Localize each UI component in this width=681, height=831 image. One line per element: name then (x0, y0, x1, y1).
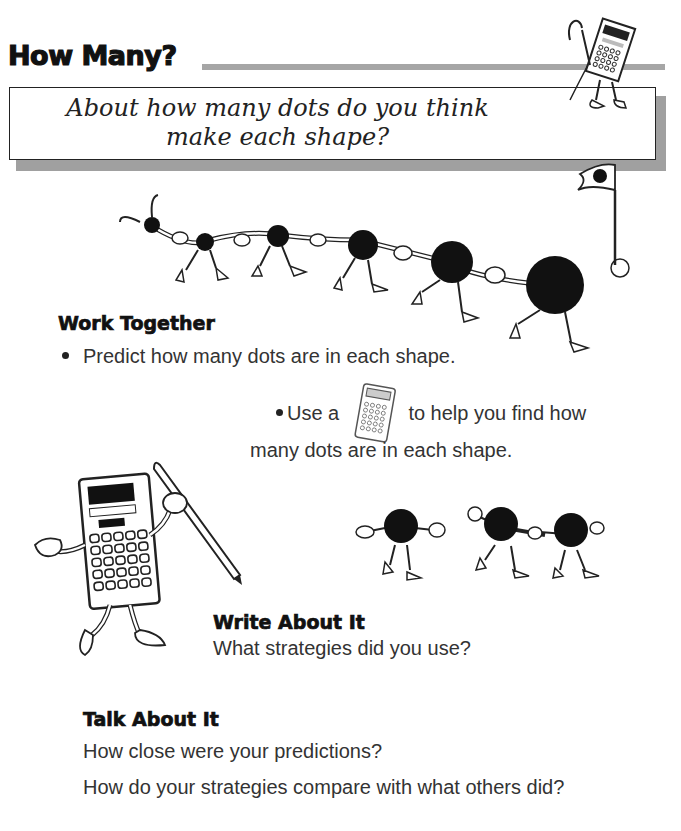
bullet-icon (276, 409, 283, 416)
dot-characters-small-icon (355, 500, 615, 585)
talk-about-it-prompt-2: How do your strategies compare with what… (83, 776, 564, 799)
question-line-1: About how many dots do you think (10, 94, 545, 123)
write-about-it-heading: Write About It (213, 611, 365, 633)
work-together-bullet-1: Predict how many dots are in each shape. (62, 345, 455, 368)
work-together-bullet-2: Use a to help you find how (276, 402, 586, 425)
question-box: About how many dots do you think make ea… (9, 87, 656, 160)
write-about-it-prompt: What strategies did you use? (213, 637, 471, 660)
talk-about-it-prompt-1: How close were your predictions? (83, 740, 382, 763)
bullet-icon (62, 352, 69, 359)
talk-about-it-heading: Talk About It (83, 708, 219, 730)
calculator-icon (353, 384, 399, 444)
work-together-heading: Work Together (58, 312, 215, 334)
calculator-mascot-icon (560, 0, 640, 115)
page-title: How Many? (8, 40, 177, 71)
question-line-2: make each shape? (10, 123, 545, 152)
work-together-bullet-2-line-2: many dots are in each shape. (250, 439, 512, 462)
